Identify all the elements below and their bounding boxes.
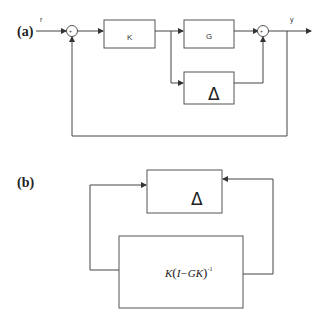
diagram-a-label: (a) xyxy=(17,24,34,40)
block-diagram-canvas: (a) r + K G Δ + y (b) Δ xyxy=(0,0,327,323)
uncertainty-input-arrow xyxy=(171,31,183,83)
svg-text:Δ: Δ xyxy=(191,189,203,209)
plant-block-g: G xyxy=(184,20,234,48)
uncertainty-block-delta: Δ xyxy=(184,72,234,104)
svg-text:+: + xyxy=(69,28,72,34)
svg-text:Δ: Δ xyxy=(208,84,220,104)
svg-text:K: K xyxy=(127,33,133,42)
svg-text:+: + xyxy=(260,28,263,34)
uncertainty-block-delta-b: Δ xyxy=(147,170,222,213)
summing-junction-2: + xyxy=(258,26,269,37)
summing-junction-1: + xyxy=(67,26,78,37)
uncertainty-output-arrow xyxy=(234,37,263,83)
output-signal-label: y xyxy=(290,16,294,24)
m-block: K(I−GK)-1 xyxy=(119,236,243,308)
diagram-b-label: (b) xyxy=(17,175,34,191)
svg-text:K(I−GK)-1: K(I−GK)-1 xyxy=(164,265,212,280)
svg-text:G: G xyxy=(206,32,212,41)
controller-block-k: K xyxy=(104,20,155,48)
input-signal-label: r xyxy=(40,16,43,23)
